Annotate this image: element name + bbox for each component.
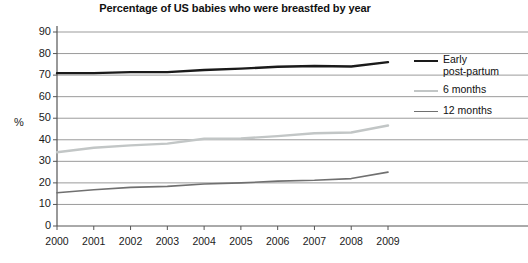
series-lines — [57, 62, 388, 193]
x-axis-tick-marks — [57, 226, 388, 230]
legend-label: 6 months — [443, 84, 528, 96]
legend-swatch-icon — [414, 111, 438, 112]
legend-item[interactable]: Early post-partum — [414, 54, 528, 77]
chart-legend: Early post-partum6 months12 months — [414, 54, 528, 126]
legend-item[interactable]: 12 months — [414, 105, 528, 119]
series-line — [57, 126, 388, 153]
legend-label: Early post-partum — [443, 54, 528, 77]
legend-label: 12 months — [443, 105, 528, 117]
legend-swatch-icon — [414, 90, 438, 92]
series-line — [57, 62, 388, 73]
legend-item[interactable]: 6 months — [414, 84, 528, 98]
chart-container: Percentage of US babies who were breastf… — [0, 0, 528, 263]
legend-swatch-icon — [414, 60, 438, 62]
plot-area — [0, 0, 528, 263]
